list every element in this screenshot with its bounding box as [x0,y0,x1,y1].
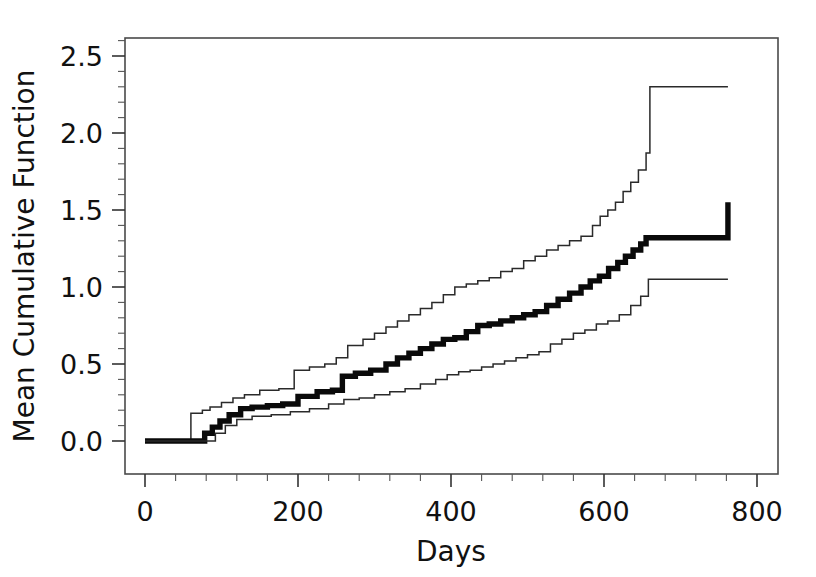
y-tick-label: 1.5 [60,195,103,226]
x-tick-label: 0 [136,496,153,527]
y-tick-label: 2.0 [60,118,103,149]
y-tick-label: 0.5 [60,349,103,380]
mean-cumulative-function-chart: 0200400600800 0.00.51.01.52.02.5 Days Me… [0,0,816,577]
y-tick-label: 0.0 [60,426,103,457]
x-tick-label: 400 [425,496,477,527]
x-tick-label: 800 [731,496,783,527]
x-tick-label: 200 [272,496,324,527]
x-tick-label: 600 [578,496,630,527]
y-tick-label: 1.0 [60,272,103,303]
chart-container: 0200400600800 0.00.51.01.52.02.5 Days Me… [0,0,816,577]
x-axis-title: Days [416,535,486,568]
y-axis-title: Mean Cumulative Function [8,70,41,443]
y-tick-label: 2.5 [60,41,103,72]
